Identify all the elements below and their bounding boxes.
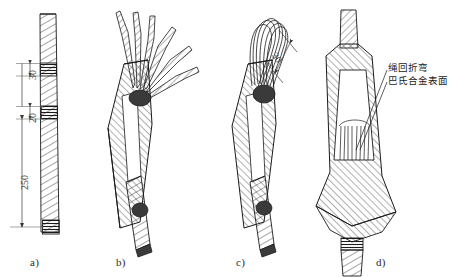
panel-c-folded-wire-loops [232, 19, 297, 257]
panel-caption-a: a) [30, 256, 39, 268]
seizing-band-middle [41, 106, 57, 119]
dimension-label-30-top: 30 [27, 70, 38, 80]
strand-binding-b [129, 90, 151, 106]
rope-tail-d [341, 238, 363, 276]
panel-d-poured-socket-section [316, 10, 396, 276]
rope-body-a [40, 14, 59, 232]
panel-caption-d: d) [376, 256, 386, 268]
panel-a-rope-with-seizings [10, 14, 59, 234]
dimension-label-250: 250 [19, 175, 30, 190]
annotation-rope-bend: 绳回折弯 [388, 62, 428, 73]
seizing-band-upper [40, 63, 56, 76]
panel-caption-c: c) [236, 256, 245, 268]
wire-rope-socketing-figure [0, 0, 453, 277]
rope-entering-socket-d [340, 10, 358, 48]
dimension-extension-lines-a [10, 64, 44, 228]
seizing-band-lower [42, 220, 59, 234]
panel-b-broomed-strands-in-socket [108, 11, 199, 257]
strand-binding-c [253, 85, 275, 103]
annotation-babbitt-surface: 巴氏合金表面 [388, 75, 448, 86]
dimension-label-20: 20 [27, 113, 38, 123]
panel-caption-b: b) [116, 256, 126, 268]
